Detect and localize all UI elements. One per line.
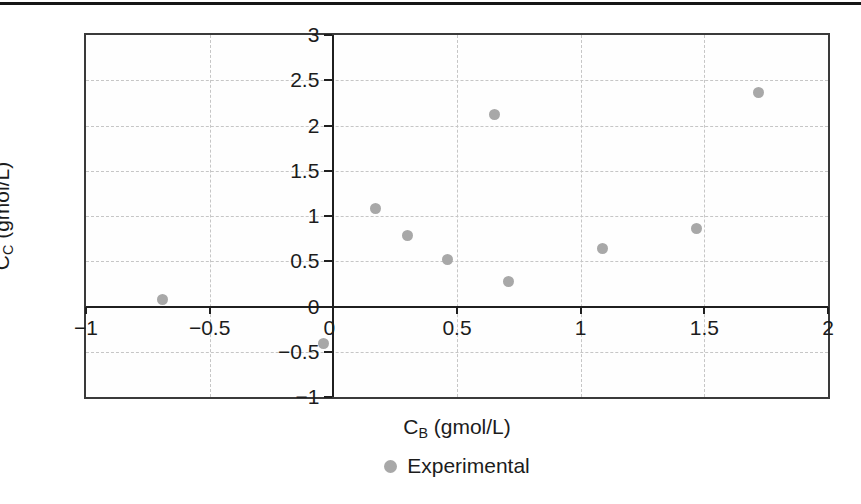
y-axis-title: CC (gmol/L) (0, 66, 16, 366)
data-point (489, 109, 500, 120)
gridline-vertical (210, 35, 211, 397)
data-point (503, 276, 514, 287)
legend: Experimental (84, 452, 830, 480)
gridline-vertical (704, 35, 705, 397)
gridline-vertical (457, 35, 458, 397)
x-axis-tick (209, 307, 211, 314)
y-axis-tick (324, 351, 332, 353)
x-tick-label: 0.5 (422, 316, 492, 340)
x-tick-label: −1 (51, 316, 121, 340)
data-point (370, 203, 381, 214)
y-tick-label: 1 (308, 204, 320, 228)
y-axis-title-main: C (0, 255, 13, 270)
y-axis-title-rest: (gmol/L) (0, 162, 13, 245)
x-axis-title-rest: (gmol/L) (428, 415, 511, 438)
y-tick-label: 0.5 (290, 249, 319, 273)
data-point (442, 254, 453, 265)
y-tick-label: −0.5 (278, 340, 319, 364)
y-axis-tick (324, 125, 332, 127)
x-axis-tick (827, 307, 829, 314)
legend-marker-icon (384, 460, 397, 473)
y-tick-label: −1 (295, 385, 319, 409)
x-axis-title-main: C (403, 415, 418, 438)
page-top-rule (0, 2, 861, 5)
y-tick-label: 3 (308, 23, 320, 47)
x-axis-title-sub: B (418, 425, 428, 441)
x-axis-tick (580, 307, 582, 314)
x-tick-label: 2 (793, 316, 861, 340)
y-axis-tick (324, 79, 332, 81)
x-axis-tick (85, 307, 87, 314)
x-axis-title: CB (gmol/L) (84, 413, 830, 441)
y-axis-tick (324, 34, 332, 36)
plot-area: −1−0.500.511.522.53−1−0.500.511.52 (84, 33, 830, 399)
x-tick-label: 1 (546, 316, 616, 340)
x-axis-tick (456, 307, 458, 314)
legend-label: Experimental (407, 452, 530, 480)
data-point (318, 338, 329, 349)
x-axis-tick (703, 307, 705, 314)
y-axis-line (332, 35, 334, 397)
x-tick-label: 0 (294, 316, 364, 340)
gridline-vertical (581, 35, 582, 397)
plot-inner: −1−0.500.511.522.53−1−0.500.511.52 (86, 35, 828, 397)
data-point (753, 87, 764, 98)
x-tick-label: −0.5 (175, 316, 245, 340)
data-point (157, 294, 168, 305)
x-tick-label: 1.5 (669, 316, 739, 340)
y-tick-label: 2.5 (290, 68, 319, 92)
chart-figure: CC (gmol/L) −1−0.500.511.522.53−1−0.500.… (0, 0, 861, 504)
y-axis-tick (324, 260, 332, 262)
y-tick-label: 2 (308, 114, 320, 138)
y-axis-tick (324, 170, 332, 172)
y-axis-title-sub: C (0, 245, 16, 255)
y-tick-label: 1.5 (290, 159, 319, 183)
data-point (597, 243, 608, 254)
data-point (402, 230, 413, 241)
data-point (691, 223, 702, 234)
y-axis-tick (324, 215, 332, 217)
y-axis-tick (324, 396, 332, 398)
